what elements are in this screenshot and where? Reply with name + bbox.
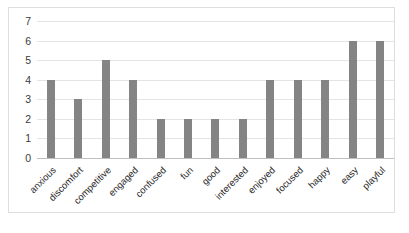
x-label-slot: fun (174, 158, 201, 214)
y-axis-tick-label: 0 (25, 153, 31, 164)
y-axis-tick-label: 4 (25, 74, 31, 85)
bar-slot (174, 21, 201, 158)
bar-slot (257, 21, 284, 158)
bar-slot (147, 21, 174, 158)
chart-frame: 01234567 anxiousdiscomfortcompetitiveeng… (8, 7, 395, 213)
bar (157, 119, 165, 158)
bar (47, 80, 55, 158)
bar (184, 119, 192, 158)
y-axis-tick-label: 1 (25, 133, 31, 144)
bar-series (37, 21, 394, 158)
bar-slot (367, 21, 394, 158)
bar-slot (284, 21, 311, 158)
bar (239, 119, 247, 158)
bar (294, 80, 302, 158)
bar-slot (312, 21, 339, 158)
bar (129, 80, 137, 158)
plot-area: 01234567 (37, 21, 394, 158)
bar (102, 60, 110, 158)
x-label-slot: confused (147, 158, 174, 214)
x-label-slot: focused (284, 158, 311, 214)
bar-slot (92, 21, 119, 158)
x-label-slot: happy (312, 158, 339, 214)
x-axis-tick-label: easy (339, 165, 360, 186)
bar (349, 41, 357, 158)
x-label-slot: playful (367, 158, 394, 214)
bar-slot (64, 21, 91, 158)
bar-slot (202, 21, 229, 158)
bar-slot (229, 21, 256, 158)
y-axis-tick-label: 2 (25, 114, 31, 125)
x-axis-tick-label: good (201, 165, 223, 187)
bar (321, 80, 329, 158)
bar-slot (119, 21, 146, 158)
x-axis-category-labels: anxiousdiscomfortcompetitiveengagedconfu… (37, 158, 394, 214)
bar-slot (339, 21, 366, 158)
bar-slot (37, 21, 64, 158)
y-axis-tick-label: 6 (25, 35, 31, 46)
y-axis-tick-label: 5 (25, 55, 31, 66)
bar (266, 80, 274, 158)
x-axis-tick-label: fun (179, 165, 195, 181)
y-axis-tick-label: 3 (25, 94, 31, 105)
bar (74, 99, 82, 158)
y-axis-tick-label: 7 (25, 16, 31, 27)
x-axis-tick-label: happy (307, 165, 332, 190)
bar (376, 41, 384, 158)
bar (211, 119, 219, 158)
